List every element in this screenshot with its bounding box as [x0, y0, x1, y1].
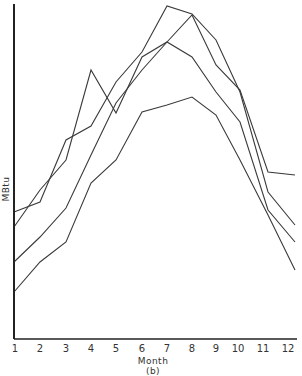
- x-tick-label: 9: [213, 343, 219, 354]
- x-tick-label: 6: [139, 343, 145, 354]
- x-tick-labels: 123456789101112: [12, 343, 295, 354]
- line-chart: 123456789101112 MBtu Month (b): [0, 0, 302, 376]
- x-tick-label: 3: [63, 343, 69, 354]
- series-line-1: [14, 42, 295, 242]
- x-tick-label: 11: [257, 343, 270, 354]
- y-axis-title: MBtu: [1, 176, 11, 201]
- x-tick-label: 2: [37, 343, 43, 354]
- series-line-2: [14, 6, 295, 225]
- x-tick-label: 5: [113, 343, 119, 354]
- panel-label: (b): [146, 366, 160, 376]
- x-tick-label: 1: [12, 343, 18, 354]
- x-tick-label: 10: [232, 343, 245, 354]
- x-tick-label: 12: [282, 343, 295, 354]
- series-lines: [14, 6, 295, 292]
- x-tick-label: 7: [164, 343, 170, 354]
- x-tick-label: 8: [189, 343, 195, 354]
- x-axis-title: Month: [138, 356, 169, 366]
- x-tick-label: 4: [88, 343, 94, 354]
